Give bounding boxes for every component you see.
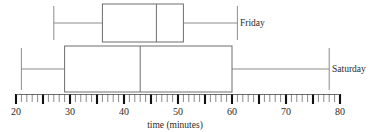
axis-tick-label: 70 bbox=[281, 106, 291, 117]
axis-tick-label: 80 bbox=[335, 106, 345, 117]
boxplot-series-saturday: Saturday bbox=[21, 46, 366, 92]
series-label: Saturday bbox=[332, 64, 366, 74]
axis-tick-label: 60 bbox=[227, 106, 237, 117]
axis-tick-marks bbox=[16, 94, 340, 104]
series-label: Friday bbox=[240, 18, 265, 28]
axis-tick-labels: 20304050607080 bbox=[11, 106, 345, 117]
box-plot-figure: Friday Saturday 20304050607080 time (min… bbox=[0, 0, 378, 132]
axis-title: time (minutes) bbox=[147, 120, 203, 131]
axis-tick-label: 30 bbox=[65, 106, 75, 117]
interquartile-box bbox=[102, 4, 183, 42]
axis-tick-label: 20 bbox=[11, 106, 21, 117]
interquartile-box bbox=[65, 46, 232, 92]
box-plot-canvas: Friday Saturday 20304050607080 time (min… bbox=[0, 0, 378, 132]
axis-tick-label: 50 bbox=[173, 106, 183, 117]
boxplot-series-friday: Friday bbox=[54, 4, 265, 42]
axis-tick-label: 40 bbox=[119, 106, 129, 117]
